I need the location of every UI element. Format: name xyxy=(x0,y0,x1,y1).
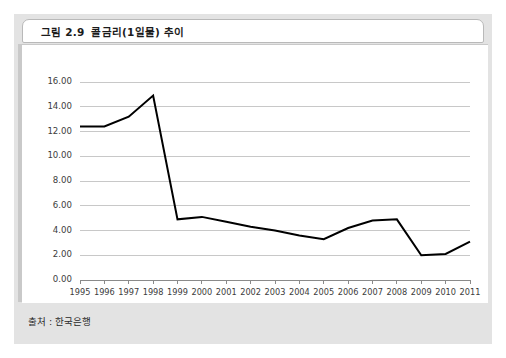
source-label: 출처 : 한국은행 xyxy=(28,314,91,328)
y-axis-tick-label: 2.00 xyxy=(34,249,72,259)
y-axis-tick-label: 16.00 xyxy=(34,76,72,86)
chart-canvas xyxy=(22,45,488,303)
y-axis-tick-label: 10.00 xyxy=(34,150,72,160)
figure-root: 그림 2.9콜금리(1일물) 추이 0.002.004.006.008.0010… xyxy=(0,0,506,358)
y-axis-tick-label: 8.00 xyxy=(34,175,72,185)
chart-card: 0.002.004.006.008.0010.0012.0014.0016.00… xyxy=(22,45,488,303)
figure-number: 그림 2.9 xyxy=(41,26,84,38)
y-axis-tick-label: 6.00 xyxy=(34,200,72,210)
figure-title-text: 콜금리(1일물) 추이 xyxy=(91,26,184,38)
source-bar: 출처 : 한국은행 xyxy=(14,306,492,344)
y-axis-tick-label: 12.00 xyxy=(34,126,72,136)
data-series-line xyxy=(80,96,470,256)
figure-title-bar: 그림 2.9콜금리(1일물) 추이 xyxy=(22,19,484,43)
y-axis-tick-label: 0.00 xyxy=(34,274,72,284)
y-axis-tick-label: 14.00 xyxy=(34,101,72,111)
y-axis-tick-label: 4.00 xyxy=(34,225,72,235)
x-axis-tick-label: 2011 xyxy=(456,287,484,297)
page-title: 그림 2.9콜금리(1일물) 추이 xyxy=(41,24,184,39)
line-chart: 0.002.004.006.008.0010.0012.0014.0016.00… xyxy=(22,45,488,303)
